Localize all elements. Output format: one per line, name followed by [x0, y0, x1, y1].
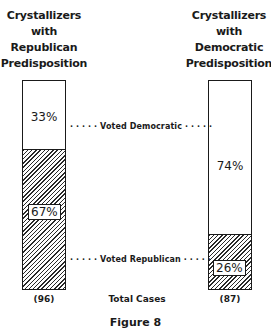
left-bar-heading: Crystallizers with Republican Predisposi…: [0, 8, 88, 72]
pct-label-left-republican: 67%: [28, 204, 61, 220]
heading-line: Crystallizers: [185, 8, 271, 24]
pct-label-right-democratic: 74%: [209, 159, 251, 173]
figure-caption: Figure 8: [0, 316, 271, 329]
heading-line: with: [0, 24, 88, 40]
heading-line: Republican: [0, 40, 88, 56]
total-cases-label: Total Cases: [90, 294, 184, 304]
heading-line: Crystallizers: [0, 8, 88, 24]
right-total-cases: (87): [208, 294, 252, 304]
leader-voted-republican: · · · · · Voted Republican · · · · ·: [70, 255, 204, 264]
heading-line: Democratic: [185, 40, 271, 56]
right-bar-democratic-predisposition: 74% 26%: [208, 80, 252, 290]
pct-label-right-republican: 26%: [213, 260, 246, 276]
left-total-cases: (96): [22, 294, 66, 304]
pct-label-left-democratic: 33%: [23, 110, 65, 124]
heading-line: Predisposition: [185, 56, 271, 72]
heading-line: with: [185, 24, 271, 40]
segment-voted-democratic: [209, 81, 251, 234]
right-bar-heading: Crystallizers with Democratic Predisposi…: [185, 8, 271, 72]
heading-line: Predisposition: [0, 56, 88, 72]
left-bar-republican-predisposition: 33% 67%: [22, 80, 66, 290]
leader-voted-democratic: · · · · · Voted Democratic · · · · ·: [70, 122, 204, 131]
